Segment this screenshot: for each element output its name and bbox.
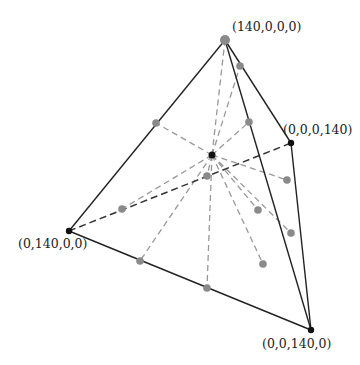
ray-line [122,155,212,209]
gray-point [245,118,253,126]
vertex-label: (0,0,140,0) [262,336,331,351]
vertex-point [288,140,294,146]
edge [225,40,291,143]
edge [69,231,311,330]
gray-point [203,172,211,180]
vertex-label: (140,0,0,0) [232,19,301,34]
ray-line [212,66,240,155]
edge [225,40,311,330]
gray-point [152,119,160,127]
hidden-edge [69,143,291,231]
tetrahedron-edges [69,40,311,330]
gray-point [254,206,262,214]
ray-line [212,40,225,155]
tetrahedron-diagram: (140,0,0,0)(0,140,0,0)(0,0,140,0)(0,0,0,… [0,0,360,365]
center-rays [122,40,291,288]
gray-point [118,205,126,213]
vertex-point [66,228,72,234]
gray-point [283,176,291,184]
ray-line [140,155,212,261]
vertex-point [308,327,314,333]
gray-point [287,229,295,237]
vertex-point [220,35,230,45]
gray-point [203,284,211,292]
ray-line [212,155,287,180]
vertex-label: (0,140,0,0) [18,236,87,251]
gray-points [118,62,295,292]
edge [291,143,311,330]
gray-point [259,260,267,268]
edge [69,40,225,231]
vertices [66,35,314,333]
gray-point [236,62,244,70]
gray-point [136,257,144,265]
center-point [209,152,216,159]
ray-line [212,122,249,155]
vertex-label: (0,0,0,140) [283,122,352,137]
ray-line [156,123,212,155]
